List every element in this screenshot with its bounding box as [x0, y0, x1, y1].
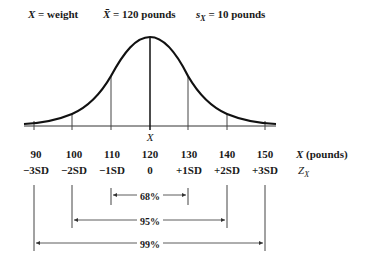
interval-95-label: 95%	[137, 216, 163, 227]
z-label: 0	[147, 164, 153, 176]
z-label: −1SD	[99, 164, 125, 176]
z-label: +2SD	[214, 164, 240, 176]
x-tick-label: 100	[66, 148, 83, 160]
z-label: −3SD	[23, 164, 49, 176]
x-tick-label: 110	[104, 148, 120, 160]
normal-distribution-diagram: X = weight X̄ = 120 pounds sX = 10 pound…	[0, 0, 368, 271]
z-axis-label: ZX	[298, 164, 309, 179]
interval-99-label: 99%	[137, 239, 163, 250]
z-label: −2SD	[61, 164, 87, 176]
z-label: +1SD	[176, 164, 202, 176]
x-axis-unit: (pounds)	[303, 148, 347, 160]
x-tick-label: 140	[219, 148, 236, 160]
z-label: +3SD	[252, 164, 278, 176]
x-tick-label: 90	[31, 148, 42, 160]
chart-graphics	[0, 0, 368, 271]
x-tick-label: 150	[257, 148, 274, 160]
interval-68-label: 68%	[137, 191, 163, 202]
x-axis-label: X (pounds)	[296, 148, 348, 160]
z-axis-subscript: X	[304, 170, 309, 179]
curve-x-label: X	[147, 131, 154, 143]
x-tick-label: 120	[142, 148, 159, 160]
x-tick-label: 130	[181, 148, 198, 160]
